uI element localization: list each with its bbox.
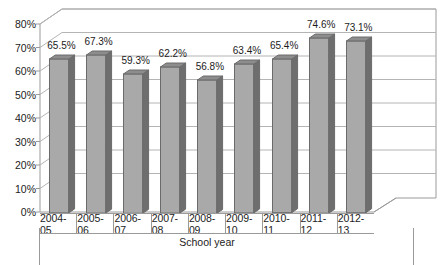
category-axis-bottom-rule [40,233,374,234]
bar-column [309,37,328,212]
bar-3d-solid [309,33,336,214]
bar-3d-solid [86,50,113,214]
frame-rule-left [39,228,40,265]
bar-3d-solid [346,36,373,214]
bar-column [86,54,105,212]
x-axis-category-label: 2012-13 [338,214,374,233]
bar-column [234,63,253,212]
x-axis-title: School year [40,236,374,248]
bar-data-label: 65.4% [263,40,306,51]
bar-chart: 80%70%60%50%40%30%20%10%0% 65.5%67.3%59.… [0,0,442,265]
bar-column [123,73,142,212]
bar-column [272,58,291,212]
x-axis-category-label: 2006-07 [114,214,151,233]
x-axis-category-label: 2010-11 [263,214,300,233]
bar-3d-solid [197,75,224,214]
bar-column [49,58,68,212]
x-axis-category-label: 2008-09 [189,214,226,233]
bar-data-label: 56.8% [188,61,231,72]
bar-data-label: 73.1% [337,22,380,33]
bar-3d-solid [49,54,76,214]
x-axis-category-label: 2004-05 [40,214,77,233]
x-axis-category-label: 2011-12 [301,214,338,233]
bar-3d-solid [272,54,299,214]
bar-data-label: 67.3% [77,36,120,47]
bar-3d-solid [160,62,187,214]
x-axis-category-label: 2007-08 [152,214,189,233]
bar-data-label: 62.2% [151,48,194,59]
x-axis-category-label: 2005-06 [77,214,114,233]
bar-column [160,66,179,212]
x-axis-category-label: 2009-10 [226,214,263,233]
bar-3d-solid [234,59,261,214]
bar-column [197,79,216,212]
x-axis-category-labels: 2004-052005-062006-072007-082008-092009-… [40,214,374,233]
bar-3d-solid [123,69,150,214]
frame-rule-right [413,228,414,265]
bar-column [346,40,365,212]
